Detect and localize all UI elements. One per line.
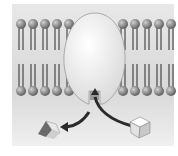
diagram-svg <box>0 0 178 156</box>
membrane-diagram <box>0 0 178 156</box>
